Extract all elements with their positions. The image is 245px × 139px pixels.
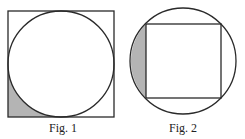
fig2-square <box>146 24 221 98</box>
figure-1 <box>8 11 114 117</box>
fig2-shaded-segment <box>131 24 146 98</box>
fig1-circle <box>8 11 114 117</box>
fig1-shaded-corner <box>8 64 61 117</box>
fig1-caption: Fig. 1 <box>33 121 93 135</box>
figure-2 <box>130 8 236 114</box>
fig2-caption: Fig. 2 <box>153 121 213 135</box>
figure-canvas <box>0 0 245 139</box>
